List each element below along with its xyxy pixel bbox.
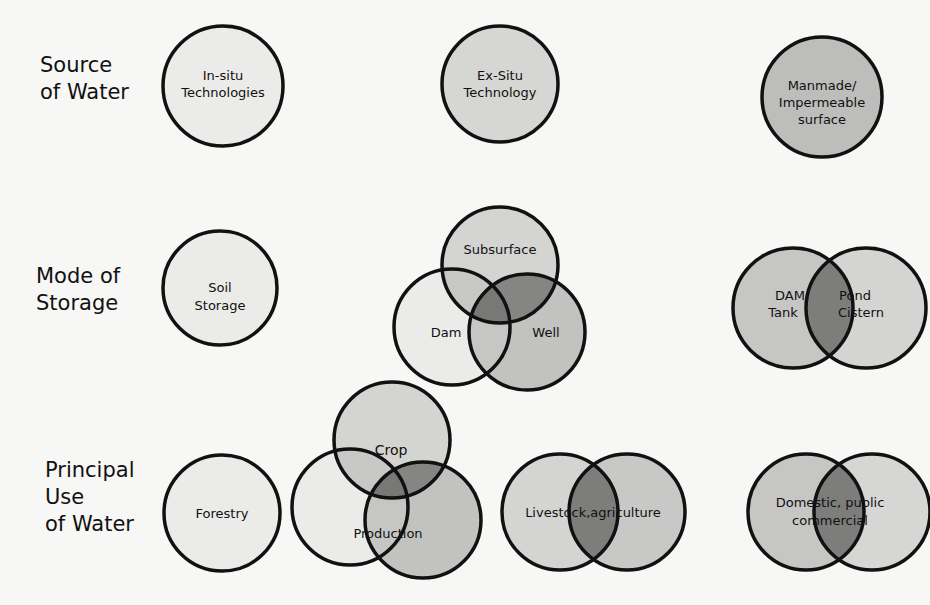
circle-insitu-technologies: In-situ Technologies	[163, 26, 283, 146]
label-crop: Crop	[375, 442, 408, 458]
venn2-livestock-agriculture: Livestock,agriculture	[502, 454, 685, 570]
label-technology: Technology	[463, 85, 537, 100]
label-subsurface: Subsurface	[464, 242, 537, 257]
venn3-crop-production: Crop Production	[292, 382, 481, 578]
label-well: Well	[532, 325, 559, 340]
label-storage: Storage	[195, 298, 246, 313]
label-livestock-agriculture: Livestock,agriculture	[525, 505, 661, 520]
label-commercial: commercial	[792, 513, 868, 528]
circle-manmade-surface: Manmade/ Impermeable surface	[762, 37, 882, 157]
label-pond: Pond	[839, 288, 871, 303]
label-dam: Dam	[431, 325, 462, 340]
venn2-domestic-public-commercial: Domestic, public commercial	[748, 454, 930, 570]
label-surface: surface	[798, 112, 846, 127]
venn-diagram-canvas: In-situ Technologies Ex-Situ Technology …	[0, 0, 930, 605]
label-technologies: Technologies	[180, 85, 265, 100]
circle-soil-storage: Soil Storage	[163, 231, 277, 345]
label-forestry: Forestry	[196, 506, 249, 521]
label-insitu: In-situ	[203, 68, 244, 83]
label-manmade: Manmade/	[788, 78, 857, 93]
circle-forestry: Forestry	[164, 455, 280, 571]
label-production: Production	[353, 526, 422, 541]
venn2-storage: DAM, Tank Pond Cistern	[733, 248, 926, 368]
circle-exsitu-technology: Ex-Situ Technology	[442, 26, 558, 142]
label-cistern: Cistern	[838, 305, 884, 320]
label-impermeable: Impermeable	[779, 95, 865, 110]
venn3-storage: Subsurface Dam Well	[394, 207, 585, 390]
label-exsitu: Ex-Situ	[477, 68, 523, 83]
label-dam-caps: DAM,	[775, 288, 809, 303]
label-domestic-public: Domestic, public	[776, 495, 885, 510]
label-tank: Tank	[767, 305, 798, 320]
label-soil: Soil	[208, 280, 231, 295]
